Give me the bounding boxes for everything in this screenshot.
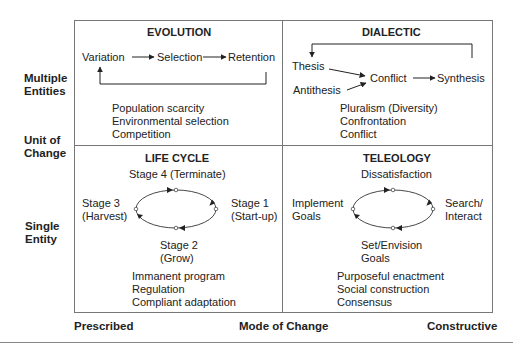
dialectic-title: DIALECTIC xyxy=(362,26,421,38)
teleology-set-envision: Set/Envision Goals xyxy=(361,239,422,265)
life-cycle-stage-2: Stage 2 (Grow) xyxy=(160,239,198,265)
teleology-dissatisfaction: Dissatisfaction xyxy=(361,168,432,181)
teleology-implement-goals: Implement Goals xyxy=(292,197,343,223)
life-cycle-stage-1: Stage 1 (Start-up) xyxy=(231,197,277,223)
horizontal-divider xyxy=(74,145,493,146)
life-cycle-title: LIFE CYCLE xyxy=(145,152,209,164)
dialectic-synthesis: Synthesis xyxy=(437,72,485,85)
implement-line1: Implement xyxy=(292,197,343,210)
life-cycle-stage-3: Stage 3 (Harvest) xyxy=(82,197,127,223)
teleology-note: Consensus xyxy=(337,296,444,309)
set-envision-line1: Set/Envision xyxy=(361,239,422,252)
evolution-title: EVOLUTION xyxy=(147,26,211,38)
teleology-note: Social construction xyxy=(337,283,444,296)
stage-2-line1: Stage 2 xyxy=(160,239,198,252)
evolution-notes: Population scarcity Environmental select… xyxy=(112,102,229,141)
x-axis-right-label: Constructive xyxy=(427,320,497,333)
life-cycle-note: Compliant adaptation xyxy=(132,296,236,309)
implement-line2: Goals xyxy=(292,210,343,223)
life-cycle-stage-4: Stage 4 (Terminate) xyxy=(129,168,226,181)
teleology-note: Purposeful enactment xyxy=(337,270,444,283)
evolution-note: Environmental selection xyxy=(112,115,229,128)
stage-2-line2: (Grow) xyxy=(160,252,198,265)
set-envision-line2: Goals xyxy=(361,252,422,265)
dialectic-notes: Pluralism (Diversity) Confrontation Conf… xyxy=(340,102,438,141)
dialectic-note: Conflict xyxy=(340,128,438,141)
y-axis-top-label-line1: Multiple xyxy=(24,72,67,85)
y-axis-bottom-label-line2: Entity xyxy=(25,233,60,246)
stage-1-line2: (Start-up) xyxy=(231,210,277,223)
evolution-note: Competition xyxy=(112,128,229,141)
y-axis-top-label: Multiple Entities xyxy=(24,72,67,98)
evolution-selection: Selection xyxy=(157,51,202,64)
stage-3-line1: Stage 3 xyxy=(82,197,127,210)
x-axis-title: Mode of Change xyxy=(239,320,328,333)
life-cycle-note: Regulation xyxy=(132,283,236,296)
y-axis-bottom-label-line1: Single xyxy=(25,220,60,233)
y-axis-title-line2: Change xyxy=(24,147,66,160)
dialectic-note: Confrontation xyxy=(340,115,438,128)
stage-1-line1: Stage 1 xyxy=(231,197,277,210)
y-axis-title-line1: Unit of xyxy=(24,134,66,147)
evolution-variation: Variation xyxy=(82,51,125,64)
y-axis-title: Unit of Change xyxy=(24,134,66,160)
teleology-title: TELEOLOGY xyxy=(363,152,431,164)
dialectic-conflict: Conflict xyxy=(370,72,407,85)
search-line1: Search/ xyxy=(445,197,483,210)
life-cycle-note: Immanent program xyxy=(132,270,236,283)
dialectic-note: Pluralism (Diversity) xyxy=(340,102,438,115)
bottom-rule xyxy=(0,342,513,343)
y-axis-top-label-line2: Entities xyxy=(24,85,67,98)
evolution-retention: Retention xyxy=(228,51,275,64)
stage-3-line2: (Harvest) xyxy=(82,210,127,223)
y-axis-bottom-label: Single Entity xyxy=(25,220,60,246)
evolution-note: Population scarcity xyxy=(112,102,229,115)
search-line2: Interact xyxy=(445,210,483,223)
dialectic-antithesis: Antithesis xyxy=(293,84,341,97)
vertical-divider xyxy=(282,20,283,313)
teleology-search-interact: Search/ Interact xyxy=(445,197,483,223)
teleology-notes: Purposeful enactment Social construction… xyxy=(337,270,444,309)
dialectic-thesis: Thesis xyxy=(292,60,324,73)
x-axis-left-label: Prescribed xyxy=(74,320,133,333)
life-cycle-notes: Immanent program Regulation Compliant ad… xyxy=(132,270,236,309)
